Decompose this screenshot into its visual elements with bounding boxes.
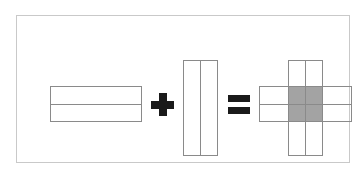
cross-result-figure [259, 60, 352, 156]
cross-vertical-column-divider [305, 61, 306, 155]
horizontal-band-operand [50, 86, 142, 122]
cross-vertical-band [288, 60, 323, 156]
equals-upper-stroke [228, 95, 250, 102]
equals-lower-stroke [228, 107, 250, 114]
vertical-band-column-divider [200, 61, 201, 155]
equals-operator-icon [228, 95, 250, 114]
diagram-root [0, 0, 363, 173]
plus-vertical-stroke [159, 93, 167, 116]
vertical-band-operand [183, 60, 218, 156]
figure-frame [16, 15, 350, 163]
plus-operator-icon [151, 93, 174, 116]
horizontal-band-row-divider [51, 104, 141, 105]
